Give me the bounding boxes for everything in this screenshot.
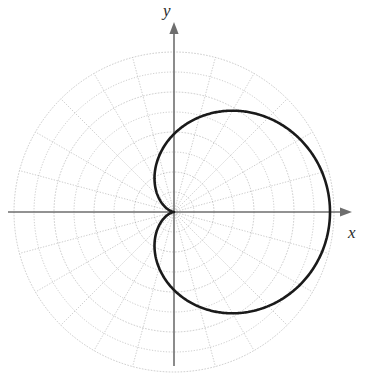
grid-spoke: [35, 212, 174, 292]
axes-lines: [8, 22, 352, 366]
grid-spoke: [133, 212, 174, 367]
grid-spoke: [19, 171, 174, 212]
grid-spoke: [174, 212, 254, 351]
polar-figure: y x: [0, 0, 367, 373]
polar-plot-canvas: [0, 0, 367, 373]
grid-spoke: [174, 212, 287, 325]
grid-spoke: [174, 212, 313, 292]
grid-spoke: [94, 212, 174, 351]
y-axis-arrowhead: [169, 22, 178, 34]
grid-spoke: [19, 212, 174, 253]
x-axis-label: x: [348, 224, 356, 241]
grid-spoke: [35, 132, 174, 212]
x-axis-arrowhead: [340, 207, 352, 216]
y-axis-label: y: [163, 2, 171, 19]
grid-spoke: [174, 212, 215, 367]
